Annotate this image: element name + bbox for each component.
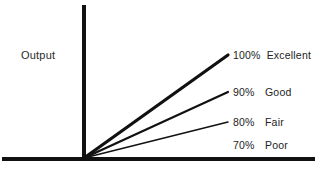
series-rating-poor: Poor [259, 139, 288, 151]
series-percent-fair: 80% [233, 116, 259, 128]
series-label-good: 90%Good [233, 86, 292, 98]
series-rating-fair: Fair [259, 116, 284, 128]
series-label-excellent: 100%Excellent [233, 49, 311, 61]
series-percent-good: 90% [233, 86, 259, 98]
series-rating-excellent: Excellent [261, 49, 311, 61]
series-rating-good: Good [259, 86, 292, 98]
series-label-fair: 80%Fair [233, 116, 284, 128]
series-percent-excellent: 100% [233, 49, 261, 61]
y-axis-title: Output [21, 49, 55, 61]
series-percent-poor: 70% [233, 139, 259, 151]
series-ray-excellent [84, 55, 228, 158]
series-ray-fair [84, 122, 228, 158]
series-label-poor: 70%Poor [233, 139, 288, 151]
series-ray-good [84, 92, 228, 158]
chart-canvas: Output 100%Excellent 90%Good 80%Fair 70%… [0, 0, 318, 169]
